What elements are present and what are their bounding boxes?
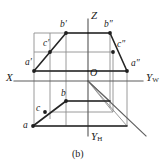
vertex-dot-c-plan <box>43 110 47 114</box>
vertex-dot-c-double-prime <box>111 50 115 54</box>
vertex-label-b-prime: b′ <box>60 20 67 30</box>
axis-label-yh: YH <box>91 131 102 143</box>
vertex-label-b-plan: b <box>61 89 66 99</box>
vertex-label-a-prime: a′ <box>25 58 32 68</box>
projection-figure: X Z YW YH O b′ b″ c′ c″ a′ a″ b c a (b) <box>0 0 167 165</box>
vertex-dot-b-prime <box>64 31 68 35</box>
vertex-dot-a-double-prime <box>125 69 129 73</box>
vertex-label-c-plan: c <box>36 104 40 114</box>
projection-drawing <box>0 0 167 165</box>
vertex-dot-c-prime <box>48 50 52 54</box>
vertex-dot-a-plan <box>31 124 35 128</box>
vertex-label-a-plan: a <box>23 121 28 131</box>
transfer-line-a <box>88 81 127 126</box>
vertex-label-c-prime: c′ <box>43 39 49 49</box>
axis-label-z: Z <box>91 10 97 22</box>
vertex-dot-a-prime <box>32 69 36 73</box>
vertex-label-c-double-prime: c″ <box>117 40 125 50</box>
vertex-dot-b-plan <box>64 99 68 103</box>
vertex-dot-b-double-prime <box>108 31 112 35</box>
vertex-label-b-double-prime: b″ <box>104 20 113 30</box>
y-oblique-axis <box>88 81 146 136</box>
vertex-label-a-double-prime: a″ <box>131 59 140 69</box>
origin-label: O <box>90 68 97 78</box>
axis-label-x: X <box>6 72 13 84</box>
axis-label-yw: YW <box>146 72 159 84</box>
figure-caption: (b) <box>72 148 84 159</box>
